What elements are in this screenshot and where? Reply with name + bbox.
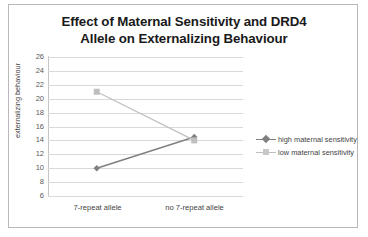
chart-legend: high maternal sensitivity low maternal s…	[256, 133, 364, 159]
chart-title-line-2: Allele on Externalizing Behaviour	[39, 30, 329, 47]
chart-title: Effect of Maternal Sensitivity and DRD4 …	[39, 13, 329, 47]
y-axis-tick-label: 8	[28, 178, 44, 186]
y-axis-tick-label: 16	[28, 123, 44, 131]
gridline	[48, 85, 243, 86]
y-axis-tick-label: 18	[28, 109, 44, 117]
legend-label-low-maternal-sensitivity: low maternal sensitivity	[278, 148, 354, 157]
x-axis-tick-label-0: 7-repeat allele	[49, 203, 146, 212]
legend-swatch-low-maternal-sensitivity	[256, 152, 276, 153]
y-axis-tick-labels: 26242220181614121086	[26, 0, 44, 237]
gridline	[48, 182, 243, 183]
gridline	[48, 71, 243, 72]
y-axis-title: externalizing behaviour	[13, 51, 22, 151]
square-marker-icon	[263, 149, 269, 155]
gridline	[48, 113, 243, 114]
y-axis-tick-label: 12	[28, 150, 44, 158]
gridline	[48, 154, 243, 155]
legend-item-high-maternal-sensitivity[interactable]: high maternal sensitivity	[256, 133, 364, 146]
chart-title-line-1: Effect of Maternal Sensitivity and DRD4	[39, 13, 329, 30]
y-axis-tick-label: 20	[28, 95, 44, 103]
y-axis-tick-label: 26	[28, 53, 44, 61]
legend-item-low-maternal-sensitivity[interactable]: low maternal sensitivity	[256, 146, 364, 159]
diamond-marker-icon	[262, 135, 270, 143]
legend-label-high-maternal-sensitivity: high maternal sensitivity	[278, 135, 357, 144]
y-axis-tick-label: 14	[28, 136, 44, 144]
y-axis-tick-label: 22	[28, 81, 44, 89]
plot-area	[48, 57, 243, 196]
gridline	[48, 99, 243, 100]
gridline	[48, 196, 243, 197]
gridline	[48, 140, 243, 141]
gridline	[48, 127, 243, 128]
x-axis-tick-label-1: no 7-repeat allele	[146, 203, 243, 212]
y-axis-tick-label: 6	[28, 192, 44, 200]
legend-swatch-high-maternal-sensitivity	[256, 139, 276, 140]
gridline	[48, 168, 243, 169]
y-axis-tick-label: 24	[28, 67, 44, 75]
y-axis-tick-label: 10	[28, 164, 44, 172]
gridline	[48, 57, 243, 58]
